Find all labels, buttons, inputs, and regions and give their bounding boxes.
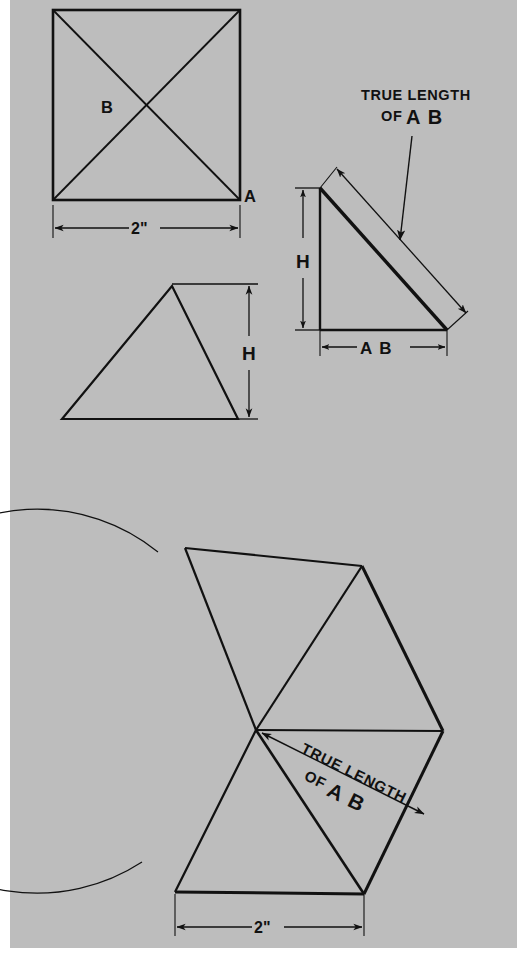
drawing-page: B A 2" H	[0, 0, 517, 968]
extension-line-base-offset	[447, 311, 468, 330]
extension-line-apex-offset	[320, 167, 337, 188]
development-arc	[0, 509, 158, 893]
dimension-height-front: H	[172, 284, 258, 419]
note-true-length-line1: TRUE LENGTH	[361, 87, 471, 103]
leader-arrow-true-length	[400, 136, 412, 240]
note-true-length-of: OF	[381, 108, 402, 124]
dimension-label-2in-top: 2"	[131, 220, 147, 237]
radial-line-5	[175, 730, 256, 892]
note-true-length: TRUE LENGTH OF A B	[361, 87, 471, 128]
technical-drawing: B A 2" H	[0, 0, 517, 968]
figure-true-length-construction: TRUE LENGTH OF A B H A B	[295, 87, 471, 358]
dimension-label-h-front: H	[242, 343, 256, 364]
dimension-height-truelength: H	[295, 188, 320, 330]
dimension-label-2in-development: 2"	[254, 919, 270, 936]
dimension-2in-top: 2"	[53, 205, 240, 238]
dimension-2in-development: 2"	[175, 894, 364, 936]
dimension-label-ab: A B	[360, 339, 393, 358]
note-development-true-length: TRUE LENGTH OF A B	[286, 739, 409, 831]
note-dev-true-length-of: OF	[302, 767, 330, 792]
base-edge-2	[362, 566, 443, 731]
dimension-ab: A B	[320, 330, 447, 358]
radial-line-3	[256, 730, 443, 731]
figure-front-view-triangle: H	[62, 284, 258, 419]
triangle-hypotenuse-true-length	[320, 188, 447, 330]
base-edge-3	[364, 731, 443, 894]
note-true-length-points: A B	[406, 106, 443, 128]
radial-line-2	[256, 566, 362, 730]
figure-surface-development: TRUE LENGTH OF A B 2"	[0, 509, 443, 936]
dimension-label-h-truelength: H	[296, 251, 310, 272]
base-edge-4	[175, 892, 364, 894]
figure-top-view-square: B A 2"	[53, 10, 256, 238]
dimension-line-hypotenuse	[337, 169, 466, 313]
base-edge-1	[185, 548, 362, 566]
dimension-true-length	[320, 167, 468, 330]
front-triangle-outline	[62, 286, 238, 419]
radial-line-1	[185, 548, 256, 730]
label-point-a: A	[244, 187, 256, 205]
label-point-b: B	[101, 98, 113, 116]
